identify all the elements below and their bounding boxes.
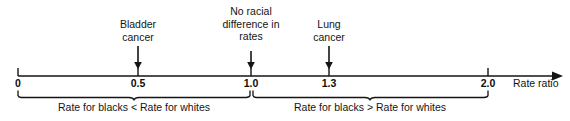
annotation-bladder-cancer: Bladder cancer: [88, 18, 188, 43]
annotation-lung-cancer-line-2: cancer: [279, 31, 379, 44]
bracket-label-right: Rate for blacks > Rate for whites: [270, 101, 470, 113]
tick-label-0: 0: [8, 78, 28, 89]
axis-title-rate-ratio: Rate ratio: [513, 78, 559, 89]
pointer-arrow-bladder-cancer: [134, 46, 142, 70]
annotation-no-racial-difference-line-1: No racial: [191, 5, 311, 18]
tick-label-1-0: 1.0: [236, 78, 266, 89]
bracket-right: [253, 91, 488, 100]
tick-label-2-0: 2.0: [473, 78, 503, 89]
tick-label-0-5: 0.5: [123, 78, 153, 89]
annotation-bladder-cancer-line-1: Bladder: [88, 18, 188, 31]
bracket-left: [18, 91, 250, 100]
pointer-arrow-no-racial-difference: [247, 51, 255, 70]
tick-label-1-3: 1.3: [314, 78, 344, 89]
annotation-lung-cancer-line-1: Lung: [279, 18, 379, 31]
pointer-arrow-lung-cancer: [325, 46, 333, 70]
rate-ratio-number-line-figure: Bladder cancer No racial difference in r…: [0, 0, 570, 121]
annotation-lung-cancer: Lung cancer: [279, 18, 379, 43]
annotation-bladder-cancer-line-2: cancer: [88, 31, 188, 44]
bracket-label-left: Rate for blacks < Rate for whites: [34, 101, 234, 113]
